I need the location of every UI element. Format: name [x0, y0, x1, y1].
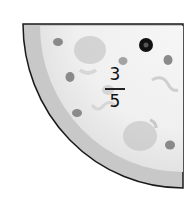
pepper-topping [53, 38, 63, 46]
pizza-slice-illustration [0, 0, 195, 202]
pepper-topping [72, 109, 82, 117]
fraction-label: 3 5 [100, 66, 130, 110]
fraction-denominator: 5 [100, 93, 130, 110]
fraction-numerator: 3 [100, 66, 130, 88]
pepper-topping [66, 72, 75, 82]
fraction-bar [105, 88, 125, 90]
pepper-topping [164, 55, 173, 65]
olive-hole [144, 43, 149, 48]
pepper-topping [165, 141, 175, 150]
